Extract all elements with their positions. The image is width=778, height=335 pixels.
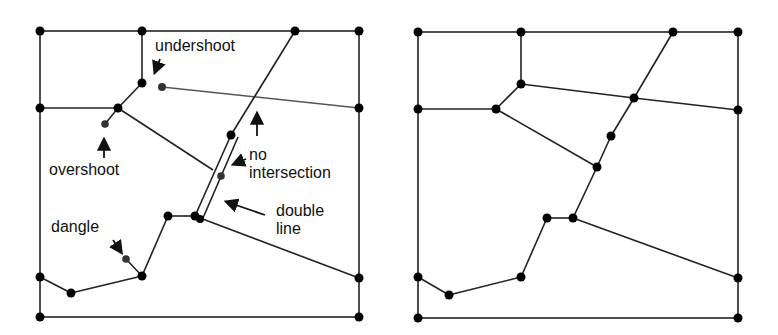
label-dangle: dangle	[51, 218, 99, 235]
right-panel-corrected	[418, 32, 738, 318]
label-no-intersection-line1: no	[249, 146, 267, 163]
undershoot-node	[158, 83, 166, 91]
overshoot-node	[101, 120, 109, 128]
right-panel-nodes	[414, 28, 743, 323]
label-undershoot: undershoot	[155, 37, 235, 54]
no-intersection-node	[217, 172, 225, 180]
dangle-node	[122, 255, 130, 263]
label-no-intersection-line2: intersection	[249, 164, 331, 181]
label-double-line-line2: line	[276, 220, 301, 237]
annotation-arrows	[104, 59, 265, 252]
label-overshoot: overshoot	[49, 161, 119, 178]
label-double-line-line1: double	[276, 202, 324, 219]
